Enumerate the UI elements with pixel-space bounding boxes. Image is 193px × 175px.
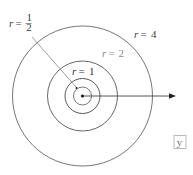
svg-text:=: = [79, 65, 85, 77]
svg-text:2: 2 [26, 21, 32, 33]
svg-text:r: r [102, 47, 107, 59]
label-r-4: r = 4 [134, 28, 157, 40]
svg-text:r: r [9, 17, 14, 29]
leader-line-r-half [32, 37, 76, 87]
svg-text:=: = [109, 47, 115, 59]
label-r-half: r = 1 2 [9, 11, 32, 33]
axis-label-y-box: y [174, 136, 186, 149]
svg-text:4: 4 [151, 28, 157, 40]
concentric-circles-diagram: r = 1 2 r = 1 r = 2 r = 4 y [0, 0, 193, 175]
axis-label-y: y [177, 136, 183, 148]
svg-text:2: 2 [119, 47, 125, 59]
svg-text:1: 1 [89, 65, 95, 77]
svg-text:=: = [16, 17, 22, 29]
leader-dot-r-half [76, 87, 78, 89]
arrow-head-icon [169, 93, 176, 98]
label-r-2: r = 2 [102, 47, 124, 59]
svg-text:=: = [141, 28, 147, 40]
svg-text:r: r [72, 65, 77, 77]
svg-text:r: r [134, 28, 139, 40]
label-r-1: r = 1 [72, 65, 95, 77]
